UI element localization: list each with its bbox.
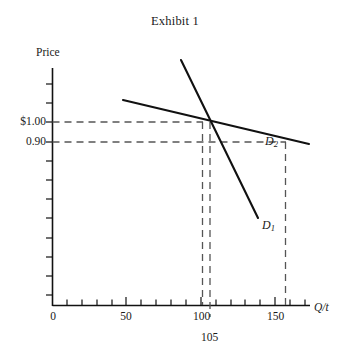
y-axis-title: Price [36,46,60,58]
curve-label-d2-text: D [265,134,274,148]
curve-label-d1-text: D [262,218,271,232]
x-tick-label-0: 0 [42,310,64,322]
x-axis-ticks [67,297,305,306]
exhibit-figure: Exhibit 1 [0,0,350,359]
x-tick-label-105: 105 [194,331,225,343]
y-tick-label-090: 0.90 [10,135,46,147]
x-tick-label-100: 100 [186,310,217,322]
demand-curve-d1 [181,60,258,218]
curve-label-d2-sub: 2 [274,139,278,149]
y-axis-ticks [46,84,53,295]
y-tick-label-100: $1.00 [10,115,46,127]
x-tick-label-150: 150 [260,310,291,322]
x-tick-label-50: 50 [112,310,140,322]
curve-label-d1-sub: 1 [271,223,275,233]
curve-label-d1: D1 [262,218,275,233]
curve-label-d2: D2 [265,134,278,149]
x-axis-title: Q/t [314,301,329,313]
